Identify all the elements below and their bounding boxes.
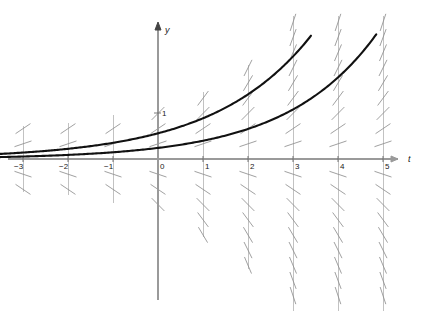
x-tick-label: −1	[104, 162, 114, 171]
x-tick-label: −2	[59, 162, 69, 171]
x-tick-label: 4	[340, 162, 345, 171]
x-tick-label: 3	[295, 162, 300, 171]
x-tick-label: 1	[205, 162, 210, 171]
x-axis-label: t	[408, 154, 411, 164]
x-tick-label: −3	[14, 162, 24, 171]
y-tick-label: 1	[162, 109, 167, 118]
slope-field-figure: −3−2−10123451 ty	[0, 0, 424, 321]
plot-canvas: −3−2−10123451 ty	[0, 0, 424, 321]
slope-field-marks	[14, 14, 392, 311]
x-tick-label: 5	[385, 162, 390, 171]
x-tick-label: 0	[160, 162, 165, 171]
solution-curves	[0, 34, 376, 157]
axis-name-labels: ty	[164, 25, 411, 164]
x-tick-label: 2	[250, 162, 255, 171]
y-axis-label: y	[164, 25, 170, 35]
